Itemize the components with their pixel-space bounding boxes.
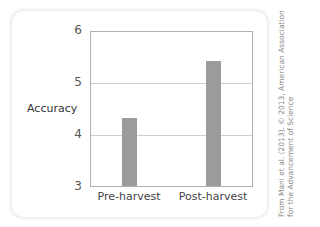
gridline-4 bbox=[91, 135, 252, 136]
y-axis-label: Accuracy bbox=[27, 102, 77, 115]
plot-area bbox=[90, 31, 253, 187]
bar-post-harvest bbox=[206, 61, 221, 186]
y-tick-6: 6 bbox=[62, 23, 82, 37]
y-tick-5: 5 bbox=[62, 75, 82, 89]
gridline-5 bbox=[91, 83, 252, 84]
credit-line-2: for the Advancement of Science bbox=[286, 10, 295, 217]
credit-line-1: From Mani et al. (2013). © 2013, America… bbox=[277, 10, 286, 217]
y-tick-3: 3 bbox=[62, 179, 82, 193]
x-tick-pre-harvest: Pre-harvest bbox=[89, 190, 169, 203]
x-tick-post-harvest: Post-harvest bbox=[173, 190, 253, 203]
bar-pre-harvest bbox=[122, 118, 137, 186]
y-tick-4: 4 bbox=[62, 127, 82, 141]
source-credit: From Mani et al. (2013). © 2013, America… bbox=[277, 10, 295, 217]
